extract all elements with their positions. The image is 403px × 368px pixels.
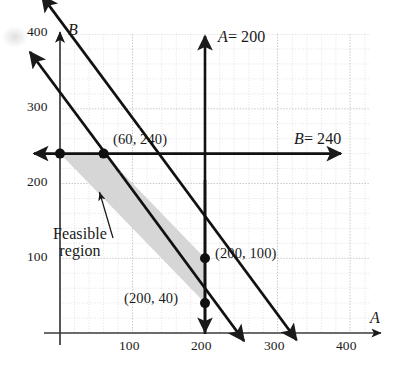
vertex-dot-200-100 — [200, 253, 210, 263]
x-tick-label-400: 400 — [336, 339, 357, 353]
label-a-equals-200-rest: = 200 — [228, 28, 266, 45]
x-axis-name: A — [370, 310, 380, 327]
label-b-equals-240: B= 240 — [294, 131, 341, 148]
feasible-region-label-line2: region — [39, 243, 121, 260]
label-b-equals-240-var: B — [294, 130, 304, 147]
label-a-equals-200-var: A — [218, 28, 228, 45]
y-tick-label-400: 400 — [27, 25, 48, 39]
x-tick-label-300: 300 — [264, 339, 285, 353]
label-a-equals-200: A= 200 — [218, 29, 265, 46]
x-tick-label-200: 200 — [191, 339, 212, 353]
vertex-dot-200-40 — [200, 298, 210, 308]
vertex-dot-60-240 — [99, 149, 109, 159]
y-tick-label-200: 200 — [27, 175, 48, 189]
feasible-region-label: Feasible region — [39, 226, 121, 260]
x-tick-label-100: 100 — [119, 339, 140, 353]
feasible-region-label-line1: Feasible — [39, 226, 121, 243]
point-label-200-100: (200, 100) — [215, 246, 276, 261]
graph-svg — [0, 0, 403, 368]
y-tick-label-300: 300 — [27, 100, 48, 114]
point-label-60-240: (60, 240) — [113, 132, 167, 147]
point-label-200-40: (200, 40) — [124, 291, 178, 306]
label-b-equals-240-rest: = 240 — [304, 130, 342, 147]
linear-programming-figure — [0, 0, 403, 368]
y-axis-name: B — [68, 22, 78, 39]
vertex-dot-0-240 — [55, 149, 65, 159]
